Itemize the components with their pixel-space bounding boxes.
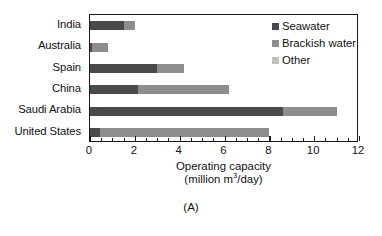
x-tick-minor xyxy=(191,138,192,141)
x-tick-label-8: 8 xyxy=(255,145,281,156)
bar-segment-seawater xyxy=(90,21,124,30)
bar-segment-brackish-water xyxy=(283,107,337,116)
x-tick-major xyxy=(90,136,91,141)
legend-swatch-icon xyxy=(272,40,279,47)
bar-segment-seawater xyxy=(90,64,157,73)
x-tick-minor xyxy=(258,138,259,141)
y-axis-label-spain: Spain xyxy=(0,62,81,73)
bar-segment-seawater xyxy=(90,107,283,116)
bar-segment-brackish-water xyxy=(92,43,108,52)
figure-panel-a: IndiaAustraliaSpainChinaSaudi ArabiaUnit… xyxy=(0,0,382,236)
y-axis-label-united-states: United States xyxy=(0,126,81,137)
x-tick-minor xyxy=(325,138,326,141)
x-axis-units-prefix: (million m xyxy=(184,173,233,185)
x-tick-minor xyxy=(101,138,102,141)
legend-label: Other xyxy=(282,55,310,66)
x-tick-minor xyxy=(348,138,349,141)
x-axis-title: Operating capacity (million m3/day) xyxy=(89,160,358,186)
legend-swatch-icon xyxy=(272,23,279,30)
x-tick-minor xyxy=(292,138,293,141)
x-tick-minor xyxy=(112,138,113,141)
legend-item-brackish-water: Brackish water xyxy=(272,36,376,51)
x-tick-major xyxy=(135,136,136,141)
bar-segment-seawater xyxy=(90,85,138,94)
bar-row xyxy=(90,21,135,30)
bar-row xyxy=(90,85,229,94)
x-tick-label-2: 2 xyxy=(121,145,147,156)
x-axis-title-line2: (million m3/day) xyxy=(89,173,358,186)
x-tick-minor xyxy=(303,138,304,141)
x-tick-minor xyxy=(337,138,338,141)
x-tick-minor xyxy=(247,138,248,141)
figure-caption: (A) xyxy=(0,200,382,213)
x-tick-minor xyxy=(157,138,158,141)
x-axis-units-suffix: /day) xyxy=(237,173,262,185)
legend-label: Seawater xyxy=(282,21,330,32)
x-tick-minor xyxy=(146,138,147,141)
x-tick-label-0: 0 xyxy=(76,145,102,156)
x-tick-label-4: 4 xyxy=(166,145,192,156)
x-tick-major xyxy=(225,136,226,141)
x-axis-title-line1: Operating capacity xyxy=(176,160,271,172)
y-axis-label-australia: Australia xyxy=(0,40,81,51)
y-axis-label-china: China xyxy=(0,83,81,94)
x-tick-minor xyxy=(281,138,282,141)
bar-segment-brackish-water xyxy=(124,21,135,30)
y-axis-label-saudi-arabia: Saudi Arabia xyxy=(0,104,81,115)
x-tick-label-6: 6 xyxy=(211,145,237,156)
bar-segment-brackish-water xyxy=(100,128,269,137)
x-tick-major xyxy=(269,136,270,141)
bar-segment-brackish-water xyxy=(138,85,229,94)
x-tick-major xyxy=(180,136,181,141)
y-axis-category-labels: IndiaAustraliaSpainChinaSaudi ArabiaUnit… xyxy=(0,14,85,142)
x-tick-minor xyxy=(213,138,214,141)
y-axis-label-india: India xyxy=(0,19,81,30)
x-tick-label-10: 10 xyxy=(300,145,326,156)
legend-item-seawater: Seawater xyxy=(272,19,376,34)
x-tick-minor xyxy=(168,138,169,141)
legend-item-other: Other xyxy=(272,53,376,68)
bar-row xyxy=(90,64,184,73)
x-tick-label-12: 12 xyxy=(345,145,371,156)
bar-segment-brackish-water xyxy=(157,64,184,73)
bar-row xyxy=(90,43,108,52)
x-tick-minor xyxy=(202,138,203,141)
x-tick-major xyxy=(359,136,360,141)
legend-label: Brackish water xyxy=(282,38,356,49)
x-tick-minor xyxy=(124,138,125,141)
x-tick-minor xyxy=(236,138,237,141)
legend-swatch-icon xyxy=(272,57,279,64)
chart-legend: SeawaterBrackish waterOther xyxy=(272,19,376,70)
x-tick-major xyxy=(314,136,315,141)
bar-segment-seawater xyxy=(90,128,100,137)
plot-area: IndiaAustraliaSpainChinaSaudi ArabiaUnit… xyxy=(0,0,382,182)
bar-row xyxy=(90,107,337,116)
